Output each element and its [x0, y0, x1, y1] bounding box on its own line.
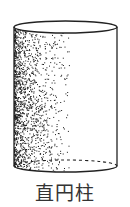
cylinder-diagram [0, 0, 130, 207]
top-ellipse [14, 21, 117, 33]
shading-stipple [14, 20, 70, 176]
figure-caption: 直円柱 [0, 178, 130, 205]
